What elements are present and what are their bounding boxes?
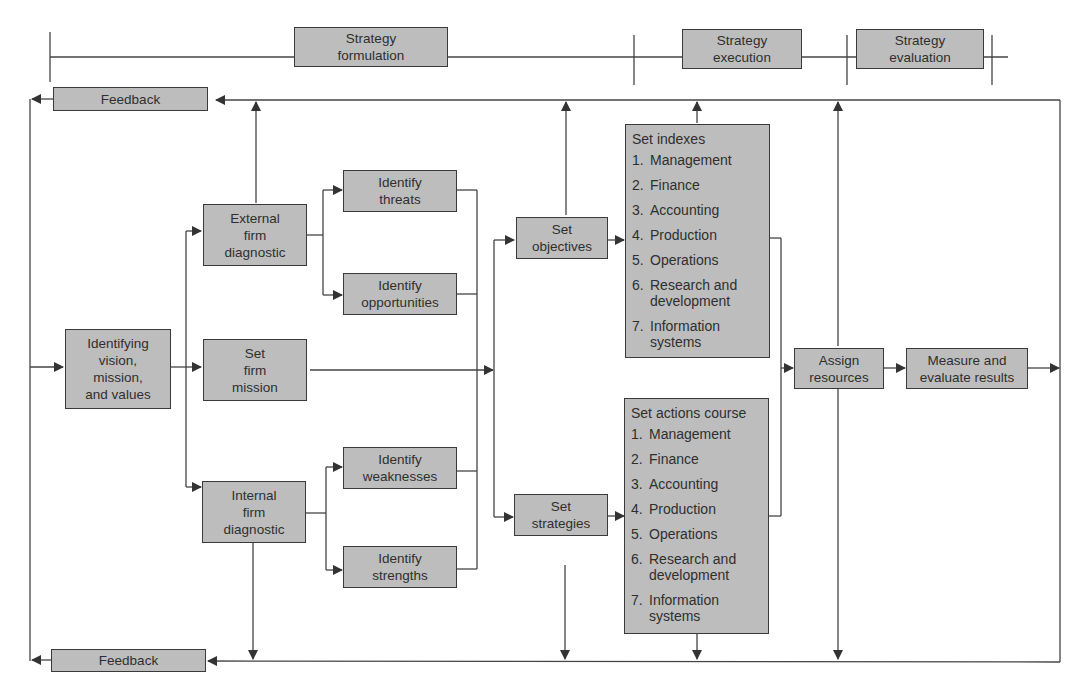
node-label: firm bbox=[244, 227, 267, 244]
node-label: opportunities bbox=[361, 294, 438, 311]
phase-label-line2: formulation bbox=[338, 47, 405, 64]
item-number: 6. bbox=[631, 551, 649, 583]
node-identify-threats: Identify threats bbox=[343, 170, 457, 212]
node-label: mission, bbox=[93, 369, 143, 386]
node-identify-weaknesses: Identify weaknesses bbox=[343, 447, 457, 489]
node-label: strategies bbox=[532, 515, 591, 532]
node-label: Identify bbox=[378, 550, 422, 567]
item-number: 7. bbox=[632, 318, 650, 350]
node-label: strengths bbox=[372, 567, 428, 584]
node-assign-resources: Assign resources bbox=[794, 348, 884, 389]
item-number: 3. bbox=[632, 202, 650, 218]
node-label: firm bbox=[244, 362, 267, 379]
feedback-label: Feedback bbox=[99, 652, 158, 669]
phase-strategy-evaluation: Strategy evaluation bbox=[856, 29, 984, 69]
node-label: Set bbox=[551, 498, 571, 515]
node-label: evaluate results bbox=[920, 369, 1015, 386]
node-label: Internal bbox=[231, 487, 276, 504]
list-item: 2.Finance bbox=[632, 177, 763, 193]
phase-label-line2: execution bbox=[713, 49, 771, 66]
item-number: 7. bbox=[631, 592, 649, 624]
node-label: External bbox=[230, 210, 280, 227]
node-label: Set bbox=[552, 221, 572, 238]
node-label: objectives bbox=[532, 238, 592, 255]
node-internal-diagnostic: Internal firm diagnostic bbox=[202, 481, 306, 543]
item-text: Operations bbox=[650, 252, 763, 268]
node-label: diagnostic bbox=[224, 521, 285, 538]
item-number: 5. bbox=[632, 252, 650, 268]
node-identify-opportunities: Identify opportunities bbox=[343, 273, 457, 315]
list-title: Set actions course bbox=[631, 403, 762, 423]
item-text: Research and development bbox=[649, 551, 762, 583]
item-text: Accounting bbox=[649, 476, 762, 492]
phase-label-line2: evaluation bbox=[889, 49, 951, 66]
item-text: Accounting bbox=[650, 202, 763, 218]
item-number: 6. bbox=[632, 277, 650, 309]
phase-label-line1: Strategy bbox=[895, 32, 945, 49]
node-measure-evaluate: Measure and evaluate results bbox=[906, 348, 1028, 389]
list-item: 3.Accounting bbox=[632, 202, 763, 218]
node-identify-strengths: Identify strengths bbox=[343, 546, 457, 588]
node-set-objectives: Set objectives bbox=[516, 217, 608, 259]
list-item: 7.Information systems bbox=[631, 592, 762, 624]
item-text: Finance bbox=[650, 177, 763, 193]
set-indexes-box: Set indexes 1.Management 2.Finance 3.Acc… bbox=[625, 124, 770, 358]
node-label: Assign bbox=[819, 352, 860, 369]
item-number: 2. bbox=[631, 451, 649, 467]
list-item: 5.Operations bbox=[632, 252, 763, 268]
node-set-strategies: Set strategies bbox=[514, 494, 608, 536]
node-label: diagnostic bbox=[225, 244, 286, 261]
list-item: 3.Accounting bbox=[631, 476, 762, 492]
list-item: 7.Information systems bbox=[632, 318, 763, 350]
node-label: vision, bbox=[99, 352, 137, 369]
list-item: 4.Production bbox=[631, 501, 762, 517]
item-number: 4. bbox=[632, 227, 650, 243]
item-text: Finance bbox=[649, 451, 762, 467]
list-title: Set indexes bbox=[632, 129, 763, 149]
item-text: Production bbox=[650, 227, 763, 243]
node-label: Identify bbox=[378, 174, 422, 191]
item-number: 2. bbox=[632, 177, 650, 193]
item-text: Information systems bbox=[650, 318, 763, 350]
item-text: Management bbox=[649, 426, 762, 442]
node-label: Set bbox=[245, 345, 265, 362]
node-label: and values bbox=[85, 386, 150, 403]
feedback-box-top: Feedback bbox=[53, 87, 208, 111]
phase-strategy-execution: Strategy execution bbox=[682, 29, 802, 69]
node-label: threats bbox=[379, 191, 420, 208]
item-text: Information systems bbox=[649, 592, 762, 624]
item-number: 3. bbox=[631, 476, 649, 492]
node-label: Identifying bbox=[87, 335, 149, 352]
list-item: 2.Finance bbox=[631, 451, 762, 467]
list-item: 5.Operations bbox=[631, 526, 762, 542]
phase-label-line1: Strategy bbox=[717, 32, 767, 49]
item-text: Management bbox=[650, 152, 763, 168]
list-item: 1.Management bbox=[632, 152, 763, 168]
item-number: 1. bbox=[631, 426, 649, 442]
node-label: weaknesses bbox=[363, 468, 437, 485]
list-item: 1.Management bbox=[631, 426, 762, 442]
node-label: Identify bbox=[378, 277, 422, 294]
phase-label-line1: Strategy bbox=[346, 30, 396, 47]
node-label: Measure and bbox=[928, 352, 1007, 369]
node-label: firm bbox=[243, 504, 266, 521]
item-number: 1. bbox=[632, 152, 650, 168]
list-item: 6.Research and development bbox=[631, 551, 762, 583]
list-item: 6.Research and development bbox=[632, 277, 763, 309]
item-number: 5. bbox=[631, 526, 649, 542]
item-text: Operations bbox=[649, 526, 762, 542]
node-label: resources bbox=[809, 369, 868, 386]
item-text: Production bbox=[649, 501, 762, 517]
set-actions-course-box: Set actions course 1.Management 2.Financ… bbox=[624, 398, 769, 634]
node-external-diagnostic: External firm diagnostic bbox=[203, 204, 307, 266]
list-item: 4.Production bbox=[632, 227, 763, 243]
phase-strategy-formulation: Strategy formulation bbox=[294, 27, 448, 67]
feedback-box-bottom: Feedback bbox=[51, 649, 206, 672]
node-set-firm-mission: Set firm mission bbox=[203, 339, 307, 401]
feedback-label: Feedback bbox=[101, 91, 160, 108]
item-text: Research and development bbox=[650, 277, 763, 309]
node-label: mission bbox=[232, 379, 278, 396]
node-label: Identify bbox=[378, 451, 422, 468]
node-identifying-vision: Identifying vision, mission, and values bbox=[65, 329, 171, 409]
item-number: 4. bbox=[631, 501, 649, 517]
